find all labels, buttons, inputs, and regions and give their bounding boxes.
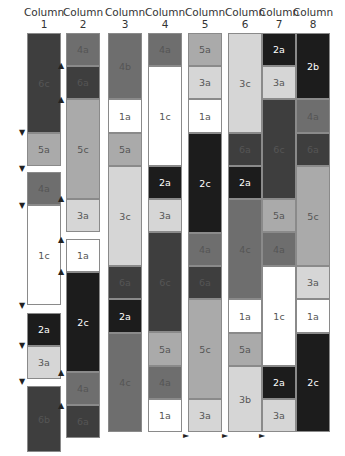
block-1a: 1a <box>188 99 222 133</box>
block-6a: 6a <box>188 266 222 299</box>
block-2c: 2c <box>296 333 330 432</box>
column-number: 2 <box>61 18 105 30</box>
block-6a: 6a <box>108 266 142 299</box>
right-arrow-icon: ► <box>183 432 189 440</box>
block-5a: 5a <box>27 133 61 166</box>
block-3a: 3a <box>66 199 100 232</box>
up-arrow-icon: ▲ <box>57 236 65 244</box>
down-arrow-icon: ▼ <box>18 378 26 386</box>
block-3a: 3a <box>262 66 296 99</box>
block-1a: 1a <box>296 299 330 333</box>
column-title: Column <box>183 6 227 18</box>
block-3a: 3a <box>27 346 61 379</box>
column-header-8: Column8 <box>291 6 335 30</box>
block-1c: 1c <box>262 266 296 366</box>
up-arrow-icon: ▲ <box>57 195 65 203</box>
down-arrow-icon: ▼ <box>18 302 26 310</box>
block-1a: 1a <box>228 299 262 333</box>
block-6a: 6a <box>228 133 262 166</box>
block-2a: 2a <box>262 33 296 66</box>
block-5a: 5a <box>262 199 296 232</box>
block-4a: 4a <box>148 33 182 66</box>
column-header-1: Column1 <box>22 6 66 30</box>
right-arrow-icon: ► <box>222 432 228 440</box>
column-number: 4 <box>143 18 187 30</box>
block-2c: 2c <box>188 133 222 233</box>
up-arrow-icon: ▲ <box>57 402 65 410</box>
block-3b: 3b <box>228 366 262 432</box>
block-5a: 5a <box>228 333 262 366</box>
block-2a: 2a <box>262 366 296 399</box>
block-4a: 4a <box>66 33 100 66</box>
column-number: 5 <box>183 18 227 30</box>
block-1a: 1a <box>108 99 142 133</box>
block-6a: 6a <box>296 133 330 166</box>
block-3c: 3c <box>228 33 262 133</box>
up-arrow-icon: ▲ <box>57 369 65 377</box>
block-3a: 3a <box>262 399 296 432</box>
block-2a: 2a <box>148 166 182 199</box>
block-2b: 2b <box>296 33 330 99</box>
column-number: 1 <box>22 18 66 30</box>
block-4a: 4a <box>148 366 182 399</box>
block-2a: 2a <box>27 313 61 346</box>
up-arrow-icon: ▲ <box>57 268 65 276</box>
block-4b: 4b <box>108 33 142 99</box>
block-4a: 4a <box>188 233 222 266</box>
down-arrow-icon: ▼ <box>18 202 26 210</box>
block-4a: 4a <box>296 99 330 133</box>
up-arrow-icon: ▲ <box>57 62 65 70</box>
column-header-3: Column3 <box>103 6 147 30</box>
right-arrow-icon: ► <box>259 432 265 440</box>
block-3a: 3a <box>188 66 222 99</box>
block-1a: 1a <box>66 239 100 272</box>
column-title: Column <box>61 6 105 18</box>
block-5a: 5a <box>188 33 222 66</box>
block-4c: 4c <box>228 199 262 299</box>
block-3a: 3a <box>188 399 222 432</box>
block-2a: 2a <box>228 166 262 199</box>
block-6c: 6c <box>148 232 182 332</box>
block-6c: 6c <box>262 99 296 199</box>
up-arrow-icon: ▲ <box>57 96 65 104</box>
column-number: 8 <box>291 18 335 30</box>
column-header-4: Column4 <box>143 6 187 30</box>
column-number: 3 <box>103 18 147 30</box>
block-1c: 1c <box>27 205 61 305</box>
block-2a: 2a <box>108 299 142 333</box>
block-3a: 3a <box>148 199 182 232</box>
block-6b: 6b <box>27 386 61 452</box>
block-6a: 6a <box>66 66 100 99</box>
column-title: Column <box>143 6 187 18</box>
column-title: Column <box>22 6 66 18</box>
block-5a: 5a <box>108 133 142 166</box>
block-4a: 4a <box>262 232 296 266</box>
block-5c: 5c <box>66 99 100 199</box>
block-4a: 4a <box>66 372 100 405</box>
block-6c: 6c <box>27 33 61 133</box>
block-4c: 4c <box>108 333 142 432</box>
block-5c: 5c <box>188 299 222 399</box>
block-1a: 1a <box>148 399 182 432</box>
block-5c: 5c <box>296 166 330 266</box>
block-1c: 1c <box>148 66 182 166</box>
column-title: Column <box>291 6 335 18</box>
column-header-5: Column5 <box>183 6 227 30</box>
block-2c: 2c <box>66 272 100 372</box>
block-4a: 4a <box>27 172 61 205</box>
down-arrow-icon: ▼ <box>18 129 26 137</box>
block-6a: 6a <box>66 405 100 438</box>
block-3a: 3a <box>296 266 330 299</box>
column-header-2: Column2 <box>61 6 105 30</box>
down-arrow-icon: ▼ <box>18 342 26 350</box>
block-3c: 3c <box>108 166 142 266</box>
column-title: Column <box>103 6 147 18</box>
block-5a: 5a <box>148 332 182 366</box>
down-arrow-icon: ▼ <box>18 165 26 173</box>
